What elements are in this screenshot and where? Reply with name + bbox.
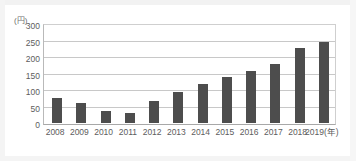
bar-series (45, 26, 334, 123)
bar-slot-2010 (94, 26, 118, 123)
page-scan-edge-left (0, 0, 5, 161)
bar-slot-2009 (69, 26, 93, 123)
page-scan-edge-right (350, 0, 356, 161)
bar-2018 (295, 48, 305, 123)
bar-2017 (270, 64, 280, 123)
bar-2014 (198, 84, 208, 123)
bar-slot-2008 (45, 26, 69, 123)
x-tick-label-2019: 2019(年) (304, 127, 340, 137)
bar-slot-2017 (263, 26, 287, 123)
bar-2012 (149, 101, 159, 123)
bar-slot-2019 (312, 26, 336, 123)
x-axis-tick-labels: 2008200920102011201220132014201520162017… (43, 127, 336, 141)
bar-slot-2011 (118, 26, 142, 123)
bar-slot-2014 (191, 26, 215, 123)
bar-2010 (101, 111, 111, 123)
bar-slot-2013 (166, 26, 190, 123)
y-tick-label-150: 150 (26, 72, 40, 80)
bar-2019 (319, 42, 329, 123)
bar-slot-2016 (239, 26, 263, 123)
bar-2013 (173, 92, 183, 123)
page-scan-edge-bottom (0, 156, 356, 161)
bar-2011 (125, 113, 135, 123)
bar-slot-2018 (288, 26, 312, 123)
bar-slot-2015 (215, 26, 239, 123)
bar-2016 (246, 71, 256, 123)
y-tick-label-300: 300 (26, 22, 40, 30)
y-tick-label-250: 250 (26, 39, 40, 47)
gridline-300 (44, 24, 335, 25)
page-scan-edge-top (0, 0, 356, 5)
y-tick-label-100: 100 (26, 88, 40, 96)
bar-2009 (76, 103, 86, 123)
bar-slot-2012 (142, 26, 166, 123)
y-axis-tick-labels: 050100150200250300 (10, 24, 40, 125)
y-tick-label-50: 50 (31, 105, 40, 113)
bar-2015 (222, 77, 232, 123)
bar-2008 (52, 98, 62, 123)
y-tick-label-200: 200 (26, 55, 40, 63)
bar-chart: (円) 050100150200250300 20082009201020112… (0, 0, 356, 161)
plot-area (43, 24, 336, 125)
